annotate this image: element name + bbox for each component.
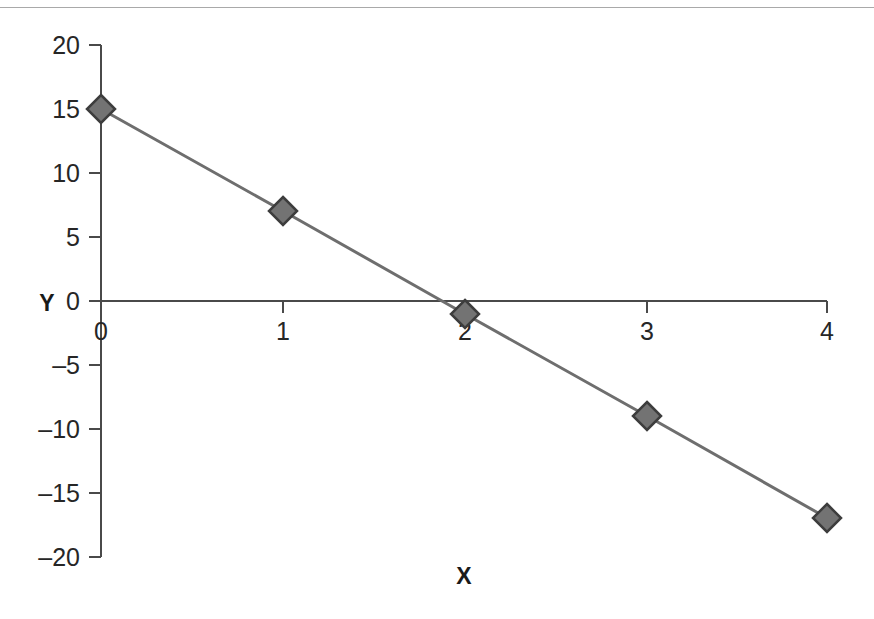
y-tick-label-neg5: –5 <box>52 351 80 379</box>
x-tick-label-0: 0 <box>94 317 108 345</box>
chart-canvas: 20 15 10 5 0 –5 –10 –15 –20 0 1 2 3 4 <box>0 0 874 619</box>
x-tick-label-3: 3 <box>640 317 654 345</box>
data-point-x1[interactable] <box>269 197 297 225</box>
data-point-x2[interactable] <box>451 300 479 328</box>
x-tick-label-1: 1 <box>276 317 290 345</box>
y-tick-label-neg20: –20 <box>38 543 80 571</box>
x-axis-title: X <box>456 563 472 589</box>
data-point-x3[interactable] <box>633 402 661 430</box>
y-tick-label-neg15: –15 <box>38 479 80 507</box>
y-tick-label-neg10: –10 <box>38 415 80 443</box>
chart-page: 20 15 10 5 0 –5 –10 –15 –20 0 1 2 3 4 <box>0 0 874 619</box>
y-tick-label-10: 10 <box>52 159 80 187</box>
y-tick-label-5: 5 <box>66 223 80 251</box>
data-point-x0[interactable] <box>87 95 115 123</box>
data-point-markers <box>87 95 841 532</box>
x-tick-label-4: 4 <box>820 317 834 345</box>
line-chart: 20 15 10 5 0 –5 –10 –15 –20 0 1 2 3 4 <box>0 0 874 619</box>
y-tick-label-15: 15 <box>52 95 80 123</box>
data-point-x4[interactable] <box>813 504 841 532</box>
y-axis-title: Y <box>39 290 54 316</box>
y-tick-label-0: 0 <box>66 287 80 315</box>
y-tick-label-20: 20 <box>52 31 80 59</box>
